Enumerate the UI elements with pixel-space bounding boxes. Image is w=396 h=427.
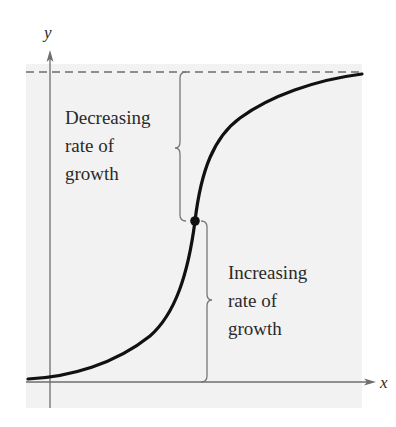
y-axis-label: y: [42, 23, 52, 42]
annotation-line: Decreasing: [65, 107, 151, 128]
x-axis-label: x: [379, 373, 388, 392]
annotation-line: growth: [65, 163, 119, 184]
logistic-growth-diagram: y x Decreasing rate of growth Increasing…: [0, 0, 396, 427]
annotation-line: rate of: [65, 135, 115, 156]
annotation-line: rate of: [228, 290, 278, 311]
annotation-line: Increasing: [228, 262, 308, 283]
annotation-line: growth: [228, 318, 282, 339]
inflection-point: [190, 216, 200, 226]
